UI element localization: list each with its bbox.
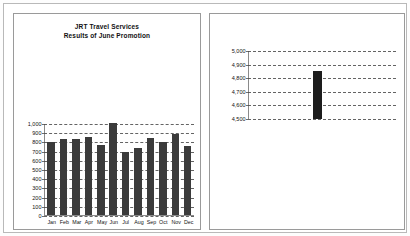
y-axis-tick-mark	[42, 152, 44, 153]
bar	[47, 142, 55, 215]
y-axis-tick-mark	[42, 179, 44, 180]
y-axis-tick-label: 800	[32, 139, 41, 145]
y-axis-tick-mark	[42, 124, 44, 125]
gridline	[248, 119, 396, 120]
summary-chart-panel[interactable]: 5,0004,9004,8004,7004,6004,500	[209, 13, 405, 230]
y-axis-tick-mark	[42, 207, 44, 208]
x-axis-tick-label: Jul	[122, 219, 130, 225]
x-axis-tick-label: Apr	[85, 219, 93, 225]
y-axis-tick-label: 500	[32, 167, 41, 173]
summary-bar-plot-area: 5,0004,9004,8004,7004,6004,500	[248, 51, 396, 119]
bar-series	[45, 124, 194, 215]
bar	[97, 145, 105, 215]
y-axis-tick-mark	[42, 170, 44, 171]
x-axis-tick-labels: JanFebMarAprMayJunJulAugSepOctNovDec	[45, 219, 194, 225]
y-axis-tick-label: 5,000	[232, 48, 246, 54]
y-axis-tick-label: 300	[32, 185, 41, 191]
bar	[313, 71, 322, 119]
y-axis-tick-mark	[246, 51, 248, 52]
monthly-sales-chart-panel[interactable]: JRT Travel Services Results of June Prom…	[13, 13, 201, 230]
y-axis-tick-mark	[246, 119, 248, 120]
gridline	[248, 78, 396, 79]
bar	[122, 152, 130, 215]
y-axis-tick-mark	[42, 161, 44, 162]
y-axis-tick-label: 4,600	[232, 102, 246, 108]
screenshot-root: JRT Travel Services Results of June Prom…	[0, 0, 410, 236]
y-axis-tick-label: 4,500	[232, 116, 246, 122]
y-axis-tick-label: 4,700	[232, 89, 246, 95]
gridline	[248, 105, 396, 106]
y-axis-tick-mark	[42, 198, 44, 199]
y-axis-tick-label: 4,900	[232, 62, 246, 68]
gridline	[248, 65, 396, 66]
x-axis-tick-label: Feb	[60, 219, 68, 225]
bar	[109, 123, 117, 215]
y-axis-tick-mark	[246, 78, 248, 79]
gridline	[248, 92, 396, 93]
monthly-bar-plot-area: 1,0009008007006005004003002001000 JanFeb…	[44, 124, 194, 216]
x-axis-tick-label: Nov	[172, 219, 180, 225]
y-axis-tick-label: 1,000	[28, 121, 42, 127]
x-axis-tick-label: Mar	[72, 219, 80, 225]
bar	[60, 139, 68, 215]
bar	[72, 139, 80, 215]
bar	[85, 137, 93, 215]
x-axis-tick-label: Jan	[47, 219, 55, 225]
x-axis-tick-label: Sep	[147, 219, 155, 225]
x-axis-tick-label: Oct	[159, 219, 167, 225]
y-axis-tick-mark	[246, 105, 248, 106]
y-axis-tick-label: 900	[32, 130, 41, 136]
chart-title-line-2: Results of June Promotion	[14, 32, 200, 41]
bar	[172, 134, 180, 215]
y-axis-tick-label: 600	[32, 158, 41, 164]
y-axis-tick-label: 100	[32, 204, 41, 210]
document-frame: JRT Travel Services Results of June Prom…	[3, 3, 407, 233]
bar	[134, 148, 142, 215]
bar	[159, 142, 167, 215]
y-axis-tick-mark	[246, 65, 248, 66]
chart-title-line-1: JRT Travel Services	[14, 23, 200, 32]
y-axis-tick-label: 4,800	[232, 75, 246, 81]
y-axis-line	[248, 51, 249, 119]
bar	[184, 146, 192, 215]
x-axis-tick-label: Aug	[134, 219, 142, 225]
y-axis-tick-label: 700	[32, 149, 41, 155]
gridline	[248, 51, 396, 52]
y-axis-tick-label: 200	[32, 195, 41, 201]
y-axis-tick-mark	[42, 188, 44, 189]
y-axis-tick-mark	[246, 92, 248, 93]
gridline	[44, 216, 194, 217]
x-axis-tick-label: May	[97, 219, 105, 225]
x-axis-tick-label: Dec	[184, 219, 192, 225]
x-axis-tick-label: Jun	[109, 219, 117, 225]
y-axis-tick-label: 400	[32, 176, 41, 182]
y-axis-tick-mark	[42, 133, 44, 134]
y-axis-tick-mark	[42, 142, 44, 143]
bar	[147, 138, 155, 215]
y-axis-tick-mark	[42, 216, 44, 217]
